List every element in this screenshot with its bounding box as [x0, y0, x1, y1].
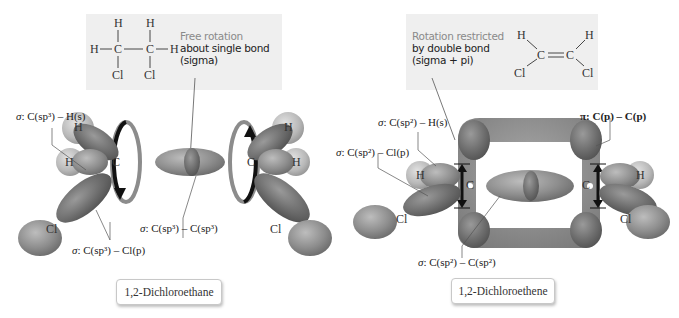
- atom-right-cl-right: Cl: [620, 212, 631, 227]
- right-bond-label-ccl: σ: C(sp²) – Cl(p): [336, 146, 409, 158]
- atom-right-c-right: C: [582, 178, 590, 193]
- atom-left-cl-left: Cl: [46, 222, 57, 237]
- right-bond-label-ch: σ: C(sp²) – H(s): [378, 116, 448, 128]
- left-bond-label-cc: σ: C(sp³) – C(sp³): [140, 222, 218, 234]
- atom-left-h-top-left: H: [74, 120, 83, 135]
- atom-left-cl-right: Cl: [270, 222, 281, 237]
- left-bond-label-ch: σ: C(sp³) – H(s): [16, 110, 86, 122]
- atom-left-h-mid-left: H: [65, 155, 74, 170]
- left-molecule-name: 1,2-Dichloroethane: [116, 279, 222, 305]
- right-molecule-name: 1,2-Dichloroethene: [451, 278, 555, 304]
- atom-right-h-right: H: [636, 168, 645, 183]
- right-bond-label-pi: π: C(p) – C(p): [580, 110, 646, 122]
- atom-right-h-left: H: [416, 168, 425, 183]
- right-molecule: [353, 118, 670, 248]
- atom-left-h-top-right: H: [284, 120, 293, 135]
- right-bond-label-cc: σ: C(sp²) – C(sp²): [418, 256, 496, 268]
- atom-left-c-left: C: [112, 155, 120, 170]
- right-structure-bonds: [527, 40, 585, 66]
- atom-left-h-mid-right: H: [292, 155, 301, 170]
- atom-right-cl-left: Cl: [396, 212, 407, 227]
- orbital-diagram: [0, 0, 679, 318]
- left-bond-label-ccl: σ: C(sp³) – Cl(p): [72, 244, 145, 256]
- atom-left-c-right: C: [247, 155, 255, 170]
- atom-right-c-left: C: [466, 178, 474, 193]
- left-structure-bonds: [100, 30, 168, 68]
